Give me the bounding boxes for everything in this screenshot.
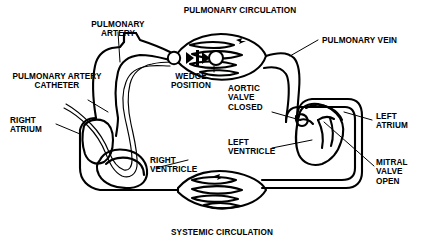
label-mitral-valve-open: MITRAL VALVE OPEN: [376, 158, 428, 186]
capillary-lobe: [190, 42, 234, 48]
diagram-canvas: PULMONARY CIRCULATION PULMONARY ARTERY P…: [0, 0, 432, 250]
label-left-atrium: LEFT ATRIUM: [376, 112, 428, 131]
label-systemic-circulation: SYSTEMIC CIRCULATION: [152, 228, 292, 237]
catheter-balloon-icon: [209, 51, 223, 65]
mitral-valve-leaflet: [318, 120, 323, 148]
capillary-lobe: [192, 177, 236, 184]
label-aortic-valve-closed: AORTIC VALVE CLOSED: [228, 84, 276, 112]
blood-flow-arrow-icon: [196, 50, 199, 66]
leader-left-atrium: [344, 112, 372, 120]
label-right-ventricle: RIGHT VENTRICLE: [150, 156, 216, 175]
catheter-tip-icon: [168, 52, 180, 64]
leader-pulmonary-vein: [290, 40, 318, 56]
capillary-lobe: [204, 203, 240, 208]
right-atrium-chamber-outline: [83, 120, 113, 164]
label-left-ventricle: LEFT VENTRICLE: [228, 138, 284, 157]
leader-pa-catheter: [88, 100, 108, 112]
right-atrium-septum: [116, 118, 118, 136]
label-wedge-position: WEDGE POSITION: [160, 72, 222, 91]
label-pulmonary-artery: PULMONARY ARTERY: [60, 20, 176, 39]
mitral-valve-leaflet: [330, 118, 333, 146]
label-pulmonary-circulation: PULMONARY CIRCULATION: [170, 6, 310, 15]
label-pulmonary-artery-catheter: PULMONARY ARTERY CATHETER: [2, 72, 112, 91]
mitral-valve-open-icon: [318, 117, 334, 120]
label-right-atrium: RIGHT ATRIUM: [10, 116, 66, 135]
capillary-lobe: [192, 195, 238, 201]
capillary-lobe: [192, 186, 242, 194]
label-pulmonary-vein: PULMONARY VEIN: [322, 36, 426, 45]
